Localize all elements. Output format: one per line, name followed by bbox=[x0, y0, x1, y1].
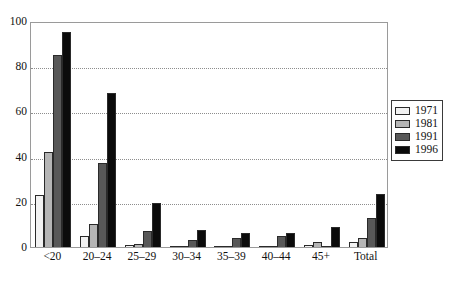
legend-swatch-icon bbox=[395, 146, 410, 154]
bar bbox=[232, 238, 241, 247]
legend-label: 1996 bbox=[415, 144, 438, 156]
bar bbox=[313, 242, 322, 247]
bar bbox=[268, 246, 277, 247]
legend-label: 1991 bbox=[415, 131, 438, 143]
x-tick-label: <20 bbox=[43, 250, 61, 263]
bar bbox=[125, 245, 134, 247]
y-tick-label: 60 bbox=[1, 107, 27, 119]
x-tick-label: 40–44 bbox=[262, 250, 291, 263]
bar bbox=[277, 236, 286, 247]
bar-group bbox=[255, 23, 300, 247]
legend-item: 1971 bbox=[395, 105, 438, 117]
bar bbox=[35, 195, 44, 247]
legend-label: 1981 bbox=[415, 118, 438, 130]
legend-swatch-icon bbox=[395, 133, 410, 141]
bar-group bbox=[31, 23, 76, 247]
bar bbox=[170, 246, 179, 247]
bar-group bbox=[300, 23, 345, 247]
bar bbox=[358, 238, 367, 247]
x-tick-label: 20–24 bbox=[83, 250, 112, 263]
x-tick-label: 45+ bbox=[312, 250, 330, 263]
bar bbox=[107, 93, 116, 247]
chart-legend: 1971198119911996 bbox=[391, 100, 443, 161]
legend-item: 1991 bbox=[395, 131, 438, 143]
bar bbox=[214, 246, 223, 247]
bar bbox=[89, 224, 98, 247]
bar-group bbox=[121, 23, 166, 247]
y-tick-label: 0 bbox=[1, 242, 27, 254]
bar bbox=[80, 236, 89, 247]
legend-label: 1971 bbox=[415, 105, 438, 117]
bar bbox=[98, 163, 107, 247]
y-tick-label: 40 bbox=[1, 152, 27, 164]
bar bbox=[331, 227, 340, 247]
bar bbox=[197, 230, 206, 247]
bar bbox=[286, 233, 295, 247]
y-tick-label: 80 bbox=[1, 61, 27, 73]
plot-area bbox=[30, 22, 388, 248]
bar-group bbox=[165, 23, 210, 247]
legend-swatch-icon bbox=[395, 107, 410, 115]
y-axis: 020406080100 bbox=[0, 22, 27, 248]
bar bbox=[376, 194, 385, 247]
x-tick-label: 25–29 bbox=[128, 250, 157, 263]
bar bbox=[322, 246, 331, 247]
bar bbox=[62, 32, 71, 247]
legend-item: 1996 bbox=[395, 144, 438, 156]
bar bbox=[349, 242, 358, 247]
bar bbox=[143, 231, 152, 247]
legend-swatch-icon bbox=[395, 120, 410, 128]
bar bbox=[367, 218, 376, 247]
x-tick-label: 30–34 bbox=[172, 250, 201, 263]
bar-group bbox=[344, 23, 389, 247]
bar bbox=[241, 233, 250, 247]
bar-group bbox=[210, 23, 255, 247]
bar bbox=[152, 203, 161, 247]
x-axis: <2020–2425–2930–3435–3940–4445+Total bbox=[30, 250, 388, 270]
bar-group bbox=[76, 23, 121, 247]
bar bbox=[179, 246, 188, 247]
bar bbox=[53, 55, 62, 247]
bar bbox=[44, 152, 53, 247]
bar-chart: 020406080100 <2020–2425–2930–3435–3940–4… bbox=[0, 0, 453, 285]
bar bbox=[304, 245, 313, 247]
x-tick-label: Total bbox=[354, 250, 377, 263]
y-tick-label: 20 bbox=[1, 197, 27, 209]
bar bbox=[259, 246, 268, 247]
bar bbox=[188, 240, 197, 247]
x-tick-label: 35–39 bbox=[217, 250, 246, 263]
y-tick-label: 100 bbox=[1, 16, 27, 28]
bar bbox=[223, 246, 232, 247]
legend-item: 1981 bbox=[395, 118, 438, 130]
bar bbox=[134, 244, 143, 247]
